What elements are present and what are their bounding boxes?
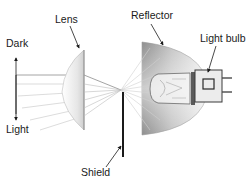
lens [62,50,84,130]
shield-leader-arrow [106,146,121,167]
label-light-bulb: Light bulb [200,33,246,44]
label-lens: Lens [55,14,78,25]
light-bulb-leader-arrow [208,46,216,72]
bulb-base [195,70,222,102]
lens-leader-arrow [70,26,79,48]
reflector-leader-arrow [151,24,163,45]
label-reflector: Reflector [131,10,173,21]
label-dark: Dark [6,38,28,49]
label-shield: Shield [81,167,110,178]
projector-headlamp-diagram: Dark Light Lens Reflector Light bulb Shi… [0,0,252,183]
diagram-canvas [0,0,252,183]
light-bulb [150,70,232,105]
label-light: Light [6,124,29,135]
converging-rays [84,75,121,116]
bulb-collar [191,72,195,105]
